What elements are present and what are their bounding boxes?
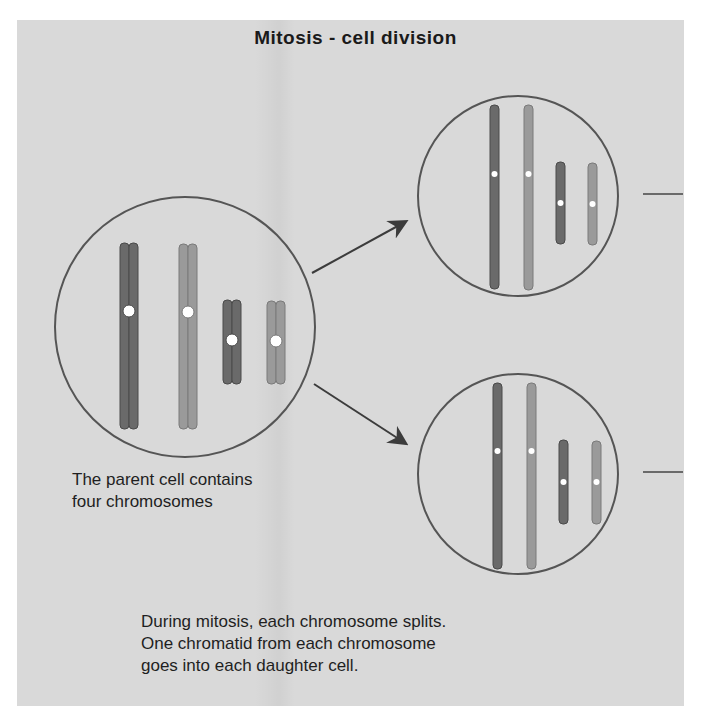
chromosome-dark-long bbox=[120, 243, 138, 429]
caption-line: During mitosis, each chromosome splits. bbox=[141, 611, 446, 633]
centromere-icon bbox=[495, 448, 501, 454]
centromere-icon bbox=[561, 479, 567, 485]
mitosis-caption: During mitosis, each chromosome splits. … bbox=[141, 611, 446, 677]
daughter-cell-bottom bbox=[418, 374, 683, 574]
caption-line: One chromatid from each chromosome bbox=[141, 633, 446, 655]
centromere-icon bbox=[594, 479, 600, 485]
centromere-icon bbox=[492, 171, 498, 177]
centromere-icon bbox=[123, 305, 135, 317]
chromatid-light-long bbox=[527, 383, 536, 569]
centromere-icon bbox=[526, 171, 532, 177]
chromatid-light-long bbox=[524, 105, 533, 290]
arrow-to-bottom-daughter-icon bbox=[314, 384, 405, 443]
chromatid-dark-long bbox=[490, 105, 499, 289]
caption-line: The parent cell contains bbox=[72, 469, 253, 491]
arrow-to-top-daughter-icon bbox=[312, 222, 405, 273]
centromere-icon bbox=[182, 306, 194, 318]
centromere-icon bbox=[558, 200, 564, 206]
chromosome-dark-short bbox=[223, 300, 241, 384]
caption-line: goes into each daughter cell. bbox=[141, 655, 446, 677]
daughter-cell-top bbox=[418, 96, 683, 296]
parent-cell bbox=[55, 197, 315, 457]
chromosome-light-short bbox=[267, 301, 285, 384]
chromatid-dark-long bbox=[493, 383, 502, 569]
caption-line: four chromosomes bbox=[72, 491, 253, 513]
centromere-icon bbox=[226, 334, 238, 346]
parent-cell-caption: The parent cell contains four chromosome… bbox=[72, 469, 253, 513]
centromere-icon bbox=[529, 448, 535, 454]
centromere-icon bbox=[270, 335, 282, 347]
centromere-icon bbox=[590, 201, 596, 207]
chromosome-light-long bbox=[179, 244, 197, 429]
